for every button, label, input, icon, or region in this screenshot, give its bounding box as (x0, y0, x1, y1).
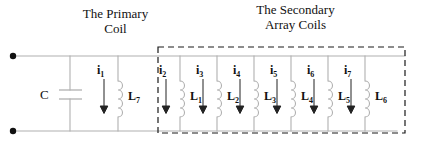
current-label-i4-subscript: 4 (236, 70, 240, 79)
current-arrow-head-i3 (199, 106, 207, 114)
inductor-coil-l1 (180, 81, 185, 117)
current-arrow-head-i1 (100, 106, 108, 114)
bottom-left-terminal-dot (10, 128, 16, 134)
inductor-label-l4: L4 (301, 89, 313, 105)
inductor-label-l2: L2 (227, 89, 239, 105)
current-label-i6-subscript: 6 (310, 70, 314, 79)
inductor-label-l5: L5 (338, 89, 350, 105)
primary-coil-title: The Primary Coil (58, 6, 173, 36)
inductor-label-l6: L6 (375, 89, 387, 105)
current-label-i4: i4 (233, 63, 240, 79)
current-label-i5: i5 (270, 63, 277, 79)
inductor-label-l6-subscript: 6 (383, 96, 387, 105)
top-left-terminal-dot (10, 53, 16, 59)
primary-coil-title-line1: The Primary (83, 6, 148, 21)
inductor-coil-l4 (291, 81, 296, 117)
current-label-i1: i1 (97, 63, 104, 79)
current-arrow-head-i5 (273, 106, 281, 114)
secondary-array-title-line1: The Secondary (256, 2, 334, 17)
current-label-i7-subscript: 7 (347, 70, 351, 79)
current-label-i2: i2 (159, 63, 166, 79)
current-label-i7: i7 (344, 63, 351, 79)
inductor-label-l1-subscript: 1 (198, 96, 202, 105)
secondary-array-title-line2: Array Coils (228, 17, 363, 32)
inductor-coil-l7 (118, 81, 123, 117)
current-label-i5-subscript: 5 (273, 70, 277, 79)
inductor-coil-l5 (328, 81, 333, 117)
current-arrow-head-i4 (236, 106, 244, 114)
inductor-label-l2-subscript: 2 (235, 96, 239, 105)
current-label-i2-subscript: 2 (162, 70, 166, 79)
current-label-i1-subscript: 1 (100, 70, 104, 79)
inductor-label-l7: L7 (128, 89, 140, 105)
inductor-label-l4-subscript: 4 (309, 96, 313, 105)
current-arrow-head-i7 (347, 106, 355, 114)
inductor-label-l7-subscript: 7 (136, 96, 140, 105)
circuit-diagram-canvas: The Primary Coil The Secondary Array Coi… (0, 0, 427, 153)
inductor-label-l3-symbol: L (264, 89, 272, 103)
inductor-label-l6-symbol: L (375, 89, 383, 103)
primary-coil-title-line2: Coil (58, 21, 173, 36)
current-label-i3: i3 (196, 63, 203, 79)
inductor-label-l5-subscript: 5 (346, 96, 350, 105)
inductor-label-l3: L3 (264, 89, 276, 105)
current-arrow-head-i6 (310, 106, 318, 114)
current-label-i3-subscript: 3 (199, 70, 203, 79)
inductor-coil-l6 (365, 81, 370, 117)
inductor-label-l2-symbol: L (227, 89, 235, 103)
inductor-coil-l2 (217, 81, 222, 117)
inductor-label-l1: L1 (190, 89, 202, 105)
current-arrow-head-i2 (162, 106, 170, 114)
inductor-label-l7-symbol: L (128, 89, 136, 103)
inductor-label-l3-subscript: 3 (272, 96, 276, 105)
inductor-label-l1-symbol: L (190, 89, 198, 103)
secondary-array-title: The Secondary Array Coils (228, 2, 363, 32)
capacitor-label: C (40, 87, 49, 103)
current-label-i6: i6 (307, 63, 314, 79)
inductor-label-l4-symbol: L (301, 89, 309, 103)
inductor-coil-l3 (254, 81, 259, 117)
inductor-label-l5-symbol: L (338, 89, 346, 103)
